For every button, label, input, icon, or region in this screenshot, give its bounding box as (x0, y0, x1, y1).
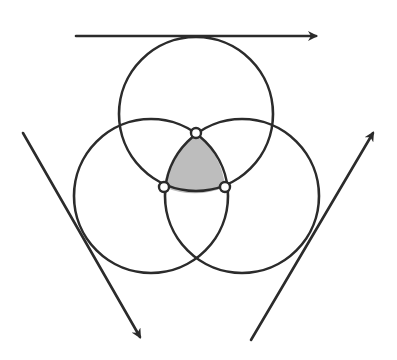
diagram-canvas (0, 0, 397, 360)
circle-left (74, 119, 228, 273)
circle-right (165, 119, 319, 273)
intersection-point-top (191, 128, 201, 138)
three-circles-diagram (0, 0, 397, 360)
intersection-point-left (159, 182, 169, 192)
intersection-point-right (220, 182, 230, 192)
